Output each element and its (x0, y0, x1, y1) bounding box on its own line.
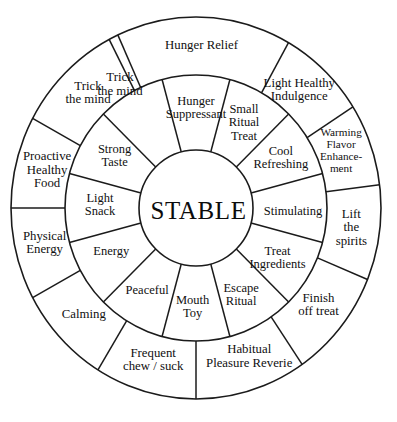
stable-wheel-diagram: STABLE Hunger SuppressantSmall Ritual Tr… (0, 0, 397, 422)
inner-spoke-10 (69, 174, 140, 193)
inner-spoke-11 (103, 114, 155, 167)
outer-spoke-5 (271, 317, 302, 365)
outer-spoke-1 (262, 43, 289, 93)
outer-spoke-10 (33, 118, 81, 145)
inner-spoke-2 (236, 114, 288, 167)
outer-spoke-4 (317, 258, 367, 280)
inner-spoke-8 (103, 249, 155, 302)
outer-spoke-2 (307, 107, 353, 138)
outer-spoke-3 (326, 185, 380, 192)
inner-spoke-0 (162, 80, 181, 152)
inner-spoke-3 (251, 174, 322, 193)
inner-spoke-4 (251, 223, 322, 242)
inner-spoke-1 (211, 80, 230, 152)
inner-spoke-6 (211, 264, 230, 336)
outer-spoke-7 (98, 321, 127, 370)
outer-spoke-8 (33, 270, 81, 297)
inner-spoke-7 (162, 264, 181, 336)
hub-label: STABLE (150, 197, 246, 225)
inner-spoke-5 (236, 249, 288, 302)
inner-spoke-9 (69, 223, 140, 242)
